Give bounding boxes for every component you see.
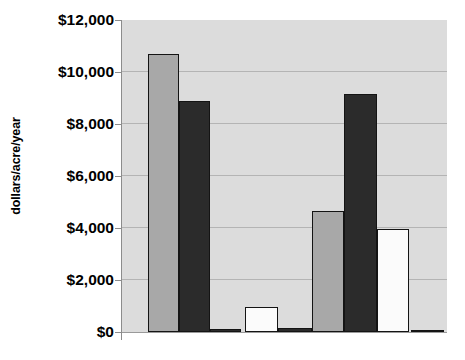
y-tick-mark-2000 [115,280,122,281]
bar-6 [312,211,344,332]
y-tick-label-2000: $2,000 [30,272,114,288]
plot-area [122,20,447,332]
bar-7 [344,94,377,332]
bar-4 [245,307,278,332]
y-tick-mark-0 [115,332,122,333]
x-axis-baseline [122,332,447,333]
y-tick-mark-8000 [115,124,122,125]
y-tick-label-0: $0 [30,324,114,340]
bar-8 [377,229,409,332]
y-tick-mark-12000 [115,20,122,21]
y-tick-mark-10000 [115,72,122,73]
y-tick-label-10000: $10,000 [30,64,114,80]
y-axis-title: dollars/acre/year [0,0,32,332]
bar-chart: dollars/acre/year $12,000 $10,000 $8,000… [0,0,465,360]
y-axis-title-label: dollars/acre/year [9,117,23,215]
y-tick-label-12000: $12,000 [30,12,114,28]
y-tick-label-8000: $8,000 [30,116,114,132]
bar-2 [179,101,210,332]
y-tick-label-6000: $6,000 [30,168,114,184]
y-tick-label-4000: $4,000 [30,220,114,236]
y-tick-mark-4000 [115,228,122,229]
y-tick-mark-6000 [115,176,122,177]
y-axis-tick-labels: $12,000 $10,000 $8,000 $6,000 $4,000 $2,… [30,0,114,360]
bar-1 [148,54,179,332]
